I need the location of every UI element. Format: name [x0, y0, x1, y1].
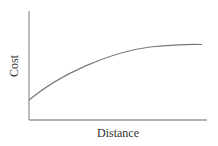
plot-area	[0, 0, 218, 146]
y-axis-label: Cost	[7, 55, 22, 77]
x-axis-label: Distance	[97, 126, 139, 141]
cost-curve	[29, 44, 202, 100]
chart: Cost Distance	[0, 0, 218, 146]
